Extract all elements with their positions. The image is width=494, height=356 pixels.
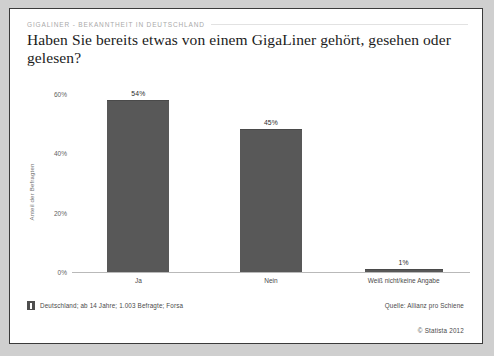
- footnote: Deutschland; ab 14 Jahre; 1.003 Befragte…: [27, 301, 183, 310]
- source-label: Quelle: Allianz pro Schiene: [385, 302, 464, 309]
- bar-value-label: 54%: [131, 90, 145, 97]
- y-axis-label: Anteil der Befragten: [29, 150, 35, 234]
- bar-group: 54% 45% 1%: [72, 81, 470, 272]
- bar-item-nein: 45%: [205, 81, 338, 272]
- page-background: GIGALINER - BEKANNTHEIT IN DEUTSCHLAND H…: [0, 0, 494, 356]
- axis-area: 0% 20% 40% 60% 54% 45% 1%: [72, 81, 470, 281]
- bar-item-ja: 54%: [72, 81, 205, 272]
- kicker-divider: [211, 24, 468, 25]
- copyright-label: © Statista 2012: [418, 327, 464, 334]
- bar-rect: [240, 129, 302, 272]
- bar-rect: [107, 100, 169, 272]
- y-tick-0: 0%: [58, 269, 67, 276]
- bar-value-label: 45%: [264, 119, 278, 126]
- chart-plot-area: Anteil der Befragten 0% 20% 40% 60% 54% …: [10, 81, 482, 296]
- bar-rect: [365, 269, 443, 272]
- infographic-card: GIGALINER - BEKANNTHEIT IN DEUTSCHLAND H…: [9, 8, 483, 344]
- kicker-row: GIGALINER - BEKANNTHEIT IN DEUTSCHLAND: [27, 18, 468, 30]
- bar-item-weiss-nicht: 1%: [337, 81, 470, 272]
- x-axis-line: [72, 272, 470, 273]
- x-axis-labels: Ja Nein Weiß nicht/keine Angabe: [72, 276, 470, 285]
- bar-value-label: 1%: [399, 259, 409, 266]
- y-tick-20: 20%: [54, 209, 67, 216]
- x-tick-label-nein: Nein: [205, 276, 338, 285]
- y-tick-60: 60%: [54, 91, 67, 98]
- y-tick-40: 40%: [54, 150, 67, 157]
- x-tick-label-ja: Ja: [72, 276, 205, 285]
- info-square-icon: [27, 301, 35, 310]
- x-tick-label-weiss-nicht: Weiß nicht/keine Angabe: [337, 276, 470, 285]
- chart-title: Haben Sie bereits etwas von einem GigaLi…: [27, 31, 467, 66]
- kicker-label: GIGALINER - BEKANNTHEIT IN DEUTSCHLAND: [27, 21, 205, 28]
- footnote-text: Deutschland; ab 14 Jahre; 1.003 Befragte…: [40, 302, 183, 309]
